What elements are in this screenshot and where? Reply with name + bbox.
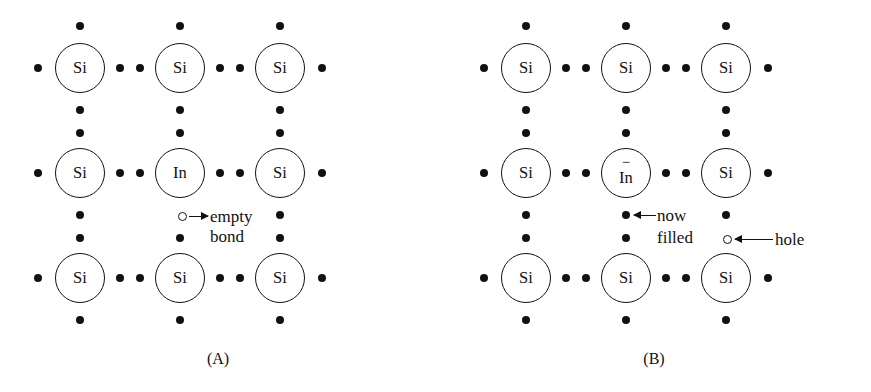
electron-dot <box>764 274 772 282</box>
electron-dot <box>76 211 84 219</box>
electron-dot <box>522 211 530 219</box>
electron-dot <box>682 169 690 177</box>
electron-dot <box>236 64 244 72</box>
electron-dot <box>662 169 670 177</box>
electron-dot <box>522 129 530 137</box>
electron-dot <box>722 316 730 324</box>
electron-dot <box>722 22 730 30</box>
atom-b-r0-c0[interactable]: Si <box>501 43 551 93</box>
electron-dot <box>722 211 730 219</box>
electron-dot <box>76 106 84 114</box>
panel-a: Si Si Si Si In Si <box>0 0 436 392</box>
electron-dot <box>76 22 84 30</box>
atom-symbol: Si <box>519 270 533 287</box>
electron-dot <box>662 274 670 282</box>
electron-dot <box>76 234 84 242</box>
hole-open-circle-icon[interactable] <box>723 235 732 244</box>
atom-symbol: Si <box>73 60 87 77</box>
atom-symbol: Si <box>273 165 287 182</box>
now-filled-arrow-icon <box>634 211 656 220</box>
electron-dot <box>480 274 488 282</box>
atom-symbol: Si <box>73 165 87 182</box>
atom-symbol: Si <box>719 60 733 77</box>
atom-symbol: In <box>173 165 187 182</box>
atom-b-r1-c0[interactable]: Si <box>501 148 551 198</box>
atom-symbol: Si <box>619 270 633 287</box>
atom-b-r2-c0[interactable]: Si <box>501 253 551 303</box>
atom-a-r2-c2[interactable]: Si <box>255 253 305 303</box>
electron-dot <box>522 234 530 242</box>
electron-dot <box>236 169 244 177</box>
atom-a-r2-c1[interactable]: Si <box>155 253 205 303</box>
electron-dot <box>216 64 224 72</box>
electron-dot <box>582 64 590 72</box>
empty-bond-label: empty bond <box>210 207 300 247</box>
electron-dot <box>136 64 144 72</box>
atom-symbol: Si <box>73 270 87 287</box>
electron-dot <box>682 274 690 282</box>
electron-dot <box>522 22 530 30</box>
electron-dot <box>622 316 630 324</box>
empty-bond-label-line2: bond <box>210 227 244 246</box>
electron-dot <box>522 316 530 324</box>
atom-symbol: Si <box>273 60 287 77</box>
electron-dot <box>522 106 530 114</box>
now-filled-label-line2: filled <box>657 228 693 247</box>
electron-dot <box>562 274 570 282</box>
electron-dot <box>34 64 42 72</box>
atom-a-r1-c1-dopant[interactable]: In <box>155 148 205 198</box>
atom-a-r1-c0[interactable]: Si <box>55 148 105 198</box>
electron-dot <box>236 274 244 282</box>
atom-b-r1-c2[interactable]: Si <box>701 148 751 198</box>
electron-dot <box>276 316 284 324</box>
electron-dot <box>480 169 488 177</box>
electron-dot <box>622 106 630 114</box>
atom-symbol: Si <box>719 165 733 182</box>
electron-dot <box>216 169 224 177</box>
atom-symbol: Si <box>719 270 733 287</box>
atom-b-r2-c1[interactable]: Si <box>601 253 651 303</box>
atom-b-r0-c2[interactable]: Si <box>701 43 751 93</box>
electron-dot <box>116 64 124 72</box>
atom-a-r0-c0[interactable]: Si <box>55 43 105 93</box>
electron-dot <box>216 274 224 282</box>
atom-a-r0-c1[interactable]: Si <box>155 43 205 93</box>
hole-label: hole <box>775 230 804 249</box>
electron-dot <box>34 274 42 282</box>
electron-dot <box>480 64 488 72</box>
electron-dot <box>318 64 326 72</box>
electron-dot <box>176 234 184 242</box>
atom-b-r1-c1-dopant-ion[interactable]: − In <box>601 148 651 198</box>
electron-dot <box>318 274 326 282</box>
electron-dot <box>764 169 772 177</box>
electron-dot <box>764 64 772 72</box>
atom-symbol: Si <box>173 60 187 77</box>
electron-dot <box>276 106 284 114</box>
electron-dot <box>136 169 144 177</box>
now-filled-bond-dot[interactable] <box>622 211 630 219</box>
atom-a-r0-c2[interactable]: Si <box>255 43 305 93</box>
electron-dot <box>562 169 570 177</box>
electron-dot <box>622 22 630 30</box>
electron-dot <box>562 64 570 72</box>
atom-a-r2-c0[interactable]: Si <box>55 253 105 303</box>
empty-bond-open-circle-icon[interactable] <box>178 212 187 221</box>
electron-dot <box>582 169 590 177</box>
empty-bond-arrow-icon <box>189 212 208 221</box>
electron-dot <box>176 129 184 137</box>
panel-a-caption: (A) <box>0 350 436 368</box>
atom-b-r0-c1[interactable]: Si <box>601 43 651 93</box>
electron-dot <box>582 274 590 282</box>
electron-dot <box>176 106 184 114</box>
atom-symbol: Si <box>273 270 287 287</box>
atom-symbol: Si <box>519 165 533 182</box>
electron-dot <box>34 169 42 177</box>
figure-canvas: Si Si Si Si In Si <box>0 0 871 392</box>
panel-b: Si Si Si Si − In Si <box>436 0 871 392</box>
atom-a-r1-c2[interactable]: Si <box>255 148 305 198</box>
electron-dot <box>176 22 184 30</box>
atom-symbol: Si <box>619 60 633 77</box>
electron-dot <box>682 64 690 72</box>
atom-symbol: Si <box>173 270 187 287</box>
atom-b-r2-c2[interactable]: Si <box>701 253 751 303</box>
